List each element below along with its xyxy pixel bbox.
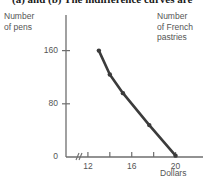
x-tick-label-16: 16 [120,161,144,171]
x-tick-label-20: 20 [164,161,188,171]
y-tick-label-160: 160 [32,45,58,55]
figure-panel: (a) and (b) The indifference curves are … [0,0,220,183]
y-tick-label-80: 80 [32,98,58,108]
y-tick-label-0: 0 [32,151,58,161]
chart-tick-marks [62,51,176,157]
chart-series-group [97,48,178,157]
chart-axes [66,15,203,157]
x-tick-label-12: 12 [76,161,100,171]
